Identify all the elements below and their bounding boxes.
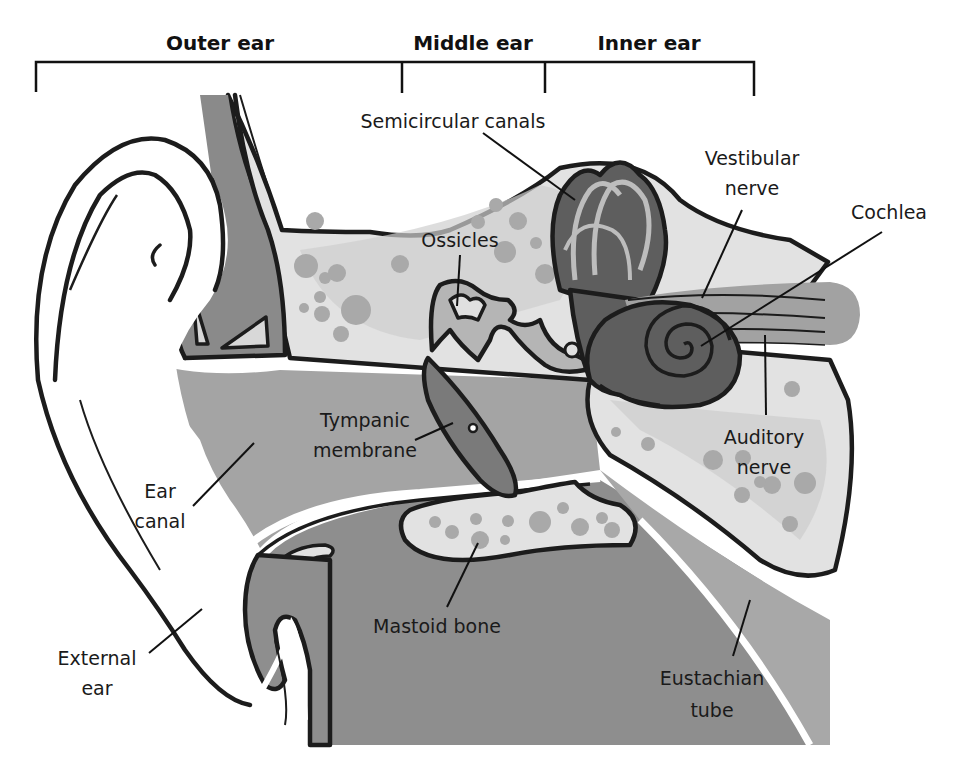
cochlea bbox=[587, 302, 740, 407]
label-ear-canal-line1: Ear bbox=[144, 480, 176, 502]
label-external-ear-line2: ear bbox=[81, 677, 112, 699]
label-ear-canal-line2: canal bbox=[134, 510, 185, 532]
label-eustachian-tube-line1: Eustachian bbox=[660, 667, 765, 689]
label-semicircular-canals: Semicircular canals bbox=[361, 110, 546, 132]
label-auditory-nerve-line1: Auditory bbox=[724, 426, 805, 448]
ear-anatomy-diagram: Outer ear Middle ear Inner ear bbox=[0, 0, 965, 766]
label-vestibular-nerve-line2: nerve bbox=[725, 177, 779, 199]
label-external-ear-line1: External bbox=[58, 647, 137, 669]
label-eustachian-tube-line2: tube bbox=[690, 699, 733, 721]
middle-ear-header: Middle ear bbox=[413, 31, 533, 55]
label-mastoid-bone: Mastoid bone bbox=[373, 615, 501, 637]
outer-ear-header: Outer ear bbox=[166, 31, 274, 55]
inner-ear-header: Inner ear bbox=[597, 31, 700, 55]
label-cochlea: Cochlea bbox=[851, 201, 927, 223]
section-brackets bbox=[36, 62, 754, 96]
label-ossicles: Ossicles bbox=[421, 229, 498, 251]
label-auditory-nerve-line2: nerve bbox=[737, 456, 791, 478]
leader-auditory-nerve bbox=[765, 335, 766, 415]
label-tympanic-membrane-line2: membrane bbox=[313, 439, 417, 461]
label-vestibular-nerve-line1: Vestibular bbox=[705, 147, 800, 169]
label-tympanic-membrane-line1: Tympanic bbox=[319, 409, 410, 431]
